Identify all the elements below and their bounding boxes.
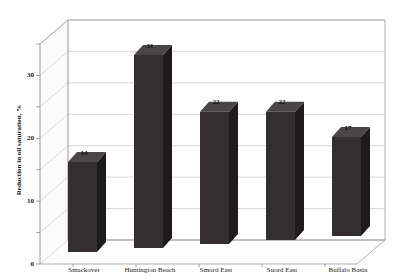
x-category-label-buffalo-basin: Buffalo Basin <box>329 266 368 274</box>
x-category-label-suord-east: Suord East <box>267 266 298 274</box>
bar-group-smord-east[interactable]: 22 <box>200 98 238 244</box>
y-tick-label-30: 30 <box>27 71 35 79</box>
bar-chart-canvas: 0 10 20 30 Reduction in oil saturation, … <box>0 0 404 279</box>
bar-value-label-suord-east: 22 <box>279 98 287 106</box>
x-category-label-smord-east: Smord East <box>200 266 233 274</box>
y-tick-label-20: 20 <box>27 134 35 142</box>
left-wall <box>40 20 68 264</box>
bar-value-label-huntington-beach: 31 <box>147 42 155 50</box>
bar-value-label-smord-east: 22 <box>213 98 221 106</box>
bar-value-label-buffalo-basin: 17 <box>345 124 353 132</box>
bar-group-smackover[interactable]: 14 <box>68 149 106 252</box>
bar-group-huntington-beach[interactable]: 31 <box>134 42 172 248</box>
bar-value-label-smackover: 14 <box>81 149 89 157</box>
x-axis-category-labels: Smackover Huntington Beach Smord East Su… <box>68 266 368 274</box>
y-axis-title: Reduction in oil saturation, % <box>15 105 23 195</box>
y-tick-label-0: 0 <box>31 260 35 268</box>
bar-group-suord-east[interactable]: 22 <box>266 98 304 240</box>
y-axis-ticks <box>36 44 40 264</box>
y-tick-label-10: 10 <box>27 197 35 205</box>
y-axis-tick-labels: 0 10 20 30 <box>27 71 35 268</box>
chart-figure: 0 10 20 30 Reduction in oil saturation, … <box>0 0 404 279</box>
x-category-label-smackover: Smackover <box>68 266 100 274</box>
x-category-label-huntington-beach: Huntington Beach <box>124 266 176 274</box>
bar-group-buffalo-basin[interactable]: 17 <box>332 124 370 236</box>
